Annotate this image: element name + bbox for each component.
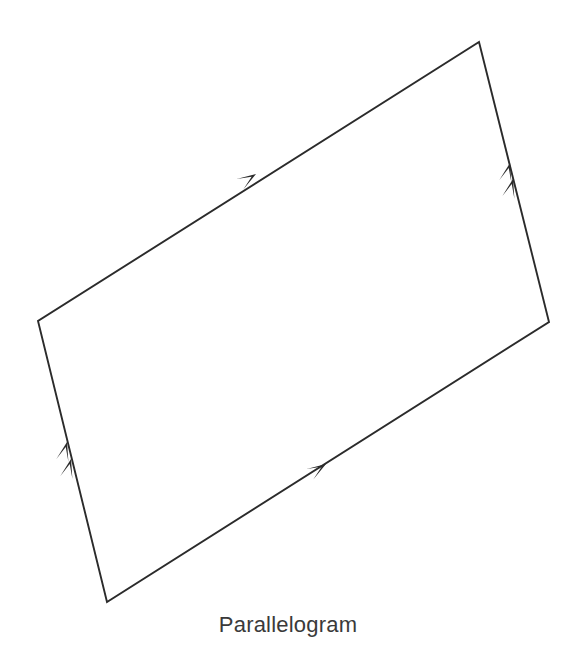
figure-caption: Parallelogram <box>0 612 576 638</box>
parallelogram-outline <box>38 42 549 602</box>
parallelogram-diagram <box>0 0 576 650</box>
figure-container: Parallelogram <box>0 0 576 650</box>
congruence-tick-arrows <box>56 162 519 480</box>
top-edge-arrow-1 <box>237 169 260 190</box>
